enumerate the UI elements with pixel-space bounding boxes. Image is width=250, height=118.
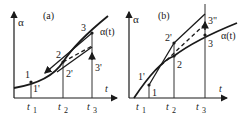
tick-t2-a: t 2 (58, 101, 68, 115)
svg-text:t: t (136, 101, 139, 112)
svg-text:1: 1 (142, 106, 146, 115)
point-2-a (61, 60, 64, 63)
tangent-line-2prime-3prime (57, 47, 92, 72)
line-1-2prime (149, 43, 174, 85)
y-axis-label-a: α (18, 16, 24, 28)
svg-text:t: t (196, 101, 199, 112)
point-label-1prime-b: 1' (138, 71, 145, 82)
point-label-3-a: 3 (81, 22, 86, 33)
point-label-1prime-a: 1' (33, 83, 40, 94)
tick-t2-b: t 2 (166, 101, 176, 115)
point-2prime-b (172, 41, 175, 44)
panel-label-a: (a) (43, 10, 54, 22)
svg-text:t: t (58, 101, 61, 112)
svg-text:2: 2 (172, 106, 176, 115)
point-3-a (90, 31, 93, 34)
svg-text:3: 3 (93, 106, 97, 115)
y-axis-label-b: α (133, 13, 139, 25)
panel-label-b: (b) (158, 10, 170, 22)
panel-b: α (b) t 1 1' 2 2' 3 3" α(t) t 1 t (129, 4, 237, 115)
point-label-1-b: 1 (152, 87, 157, 98)
svg-text:t: t (87, 101, 90, 112)
point-label-2-a: 2 (56, 49, 61, 60)
svg-text:2: 2 (64, 106, 68, 115)
point-3-b (203, 33, 206, 36)
svg-text:3: 3 (202, 106, 206, 115)
x-axis-label-b: t (219, 83, 222, 94)
tick-t1-a: t 1 (27, 101, 37, 115)
point-2-b (172, 54, 175, 57)
point-label-2prime-b: 2' (165, 32, 172, 43)
point-label-3-b: 3 (208, 38, 213, 49)
panel-a: α (a) t 1 1' 2 2' 3 3' α(t) t 1 t 2 (14, 10, 117, 115)
point-label-3prime-a: 3' (95, 62, 102, 73)
svg-text:1: 1 (33, 106, 37, 115)
arrow-3-to-1-a (45, 33, 92, 73)
tick-t3-a: t 3 (87, 101, 97, 115)
curve-label-a: α(t) (100, 26, 115, 38)
x-axis-label-a: t (105, 83, 108, 94)
diagram-canvas: α (a) t 1 1' 2 2' 3 3' α(t) t 1 t 2 (0, 0, 250, 118)
point-1-b (147, 83, 150, 86)
curve-label-b: α(t) (221, 30, 236, 42)
point-label-1-a: 1 (25, 69, 30, 80)
svg-text:t: t (27, 101, 30, 112)
point-label-3dprime-b: 3" (208, 15, 217, 26)
point-label-2-b: 2 (177, 59, 182, 70)
tick-t3-b: t 3 (196, 101, 206, 115)
svg-text:t: t (166, 101, 169, 112)
tick-t1-b: t 1 (136, 101, 146, 115)
point-label-2prime-a: 2' (66, 68, 73, 79)
